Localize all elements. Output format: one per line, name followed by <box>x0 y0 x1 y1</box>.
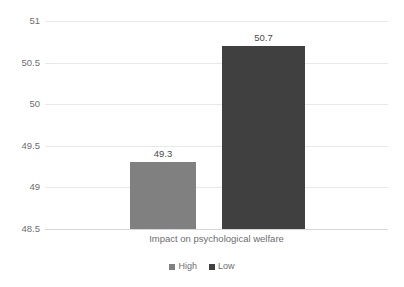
y-axis-tick-label: 50 <box>6 99 40 109</box>
bar-value-label-low: 50.7 <box>222 33 305 43</box>
legend-swatch-icon <box>169 264 175 270</box>
legend-item-low[interactable]: Low <box>209 262 235 271</box>
legend-item-high[interactable]: High <box>169 262 197 271</box>
legend: High Low <box>0 262 404 271</box>
gridline <box>45 187 388 188</box>
x-axis-line <box>45 229 388 230</box>
x-axis-label: Impact on psychological welfare <box>45 234 388 244</box>
y-axis-tick-label: 49.5 <box>6 141 40 151</box>
legend-swatch-icon <box>209 264 215 270</box>
gridline <box>45 63 388 64</box>
gridline <box>45 146 388 147</box>
y-axis-tick-label: 48.5 <box>6 224 40 234</box>
bar-high[interactable] <box>130 162 196 229</box>
bar-chart: 51 50.5 50 49.5 49 48.5 49.3 50.7 Impact… <box>0 0 404 287</box>
y-axis-tick-label: 50.5 <box>6 58 40 68</box>
y-axis-tick-label: 51 <box>6 16 40 26</box>
y-axis-tick-label: 49 <box>6 182 40 192</box>
bar-low[interactable] <box>222 46 305 229</box>
plot-area: 49.3 50.7 <box>45 21 388 229</box>
legend-label: Low <box>218 262 235 271</box>
bar-value-label-high: 49.3 <box>130 149 196 159</box>
gridline <box>45 104 388 105</box>
gridline <box>45 21 388 22</box>
legend-label: High <box>178 262 197 271</box>
